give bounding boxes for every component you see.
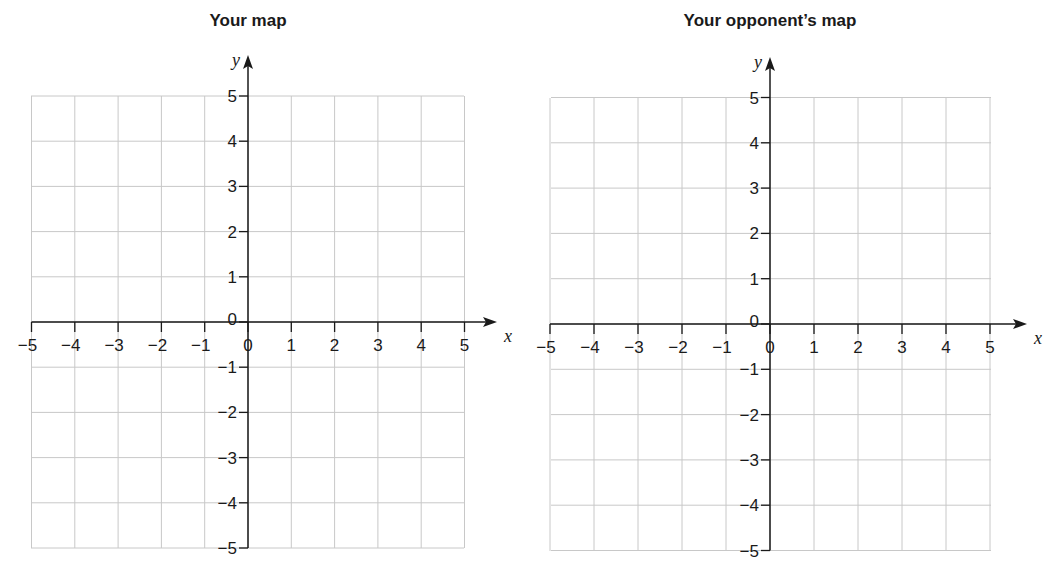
y-axis-label: y — [752, 52, 762, 72]
x-tick-label: −4 — [580, 338, 599, 357]
x-tick-label: 5 — [985, 338, 994, 357]
y-tick-label: 4 — [750, 134, 759, 153]
opponent-map-grid[interactable]: −5−4−3−2−1012345−5−4−3−2−1012345xy — [0, 0, 1057, 588]
y-tick-label: −4 — [740, 496, 759, 515]
x-tick-label: 4 — [941, 338, 950, 357]
x-tick-label: −2 — [668, 338, 687, 357]
x-tick-label: −3 — [624, 338, 643, 357]
y-tick-label: −5 — [740, 542, 759, 561]
y-tick-label: −2 — [740, 406, 759, 425]
y-tick-label: 2 — [750, 224, 759, 243]
x-tick-label: 2 — [853, 338, 862, 357]
x-tick-label: −1 — [712, 338, 731, 357]
y-tick-label: 0 — [750, 312, 759, 331]
y-tick-label: 1 — [750, 270, 759, 289]
y-tick-label: −3 — [740, 451, 759, 470]
x-axis-label: x — [1033, 328, 1042, 348]
y-tick-label: −1 — [740, 360, 759, 379]
x-tick-label: 3 — [897, 338, 906, 357]
x-tick-label: 1 — [809, 338, 818, 357]
x-tick-label: 0 — [765, 338, 774, 357]
y-tick-label: 3 — [750, 179, 759, 198]
y-tick-label: 5 — [750, 89, 759, 108]
x-tick-label: −5 — [536, 338, 555, 357]
